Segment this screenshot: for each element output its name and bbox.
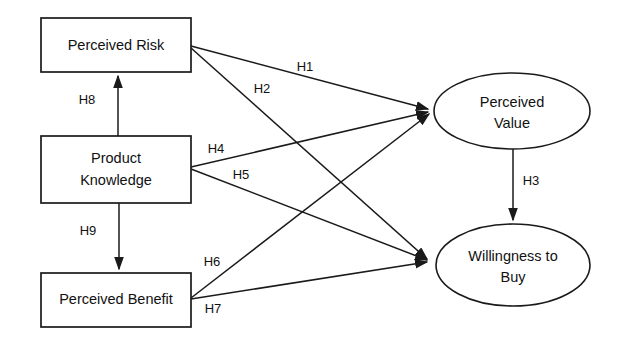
node-perceived-risk[interactable]: Perceived Risk	[41, 18, 191, 72]
edge-h6	[191, 114, 429, 298]
hypothesis-label-h2: H2	[254, 81, 271, 96]
hypothesis-label-h7: H7	[205, 301, 222, 316]
node-perceived-benefit[interactable]: Perceived Benefit	[41, 273, 191, 327]
diagram-canvas: Perceived Risk Product Knowledge Perceiv…	[0, 0, 618, 349]
perceived-value-label-line1: Perceived	[480, 94, 544, 110]
hypothesis-label-h6: H6	[204, 254, 221, 269]
hypothesis-label-h3: H3	[523, 173, 540, 188]
perceived-benefit-label: Perceived Benefit	[59, 291, 173, 307]
node-product-knowledge[interactable]: Product Knowledge	[41, 136, 191, 203]
perceived-risk-label: Perceived Risk	[68, 37, 165, 53]
product-knowledge-box[interactable]	[41, 136, 191, 203]
edge-h1	[191, 46, 428, 109]
willingness-to-buy-label-line2: Buy	[501, 269, 527, 285]
perceived-value-label-line2: Value	[494, 115, 530, 131]
willingness-to-buy-label-line1: Willingness to	[468, 248, 557, 264]
hypothesis-label-h8: H8	[79, 92, 96, 107]
hypothesis-label-h9: H9	[80, 223, 97, 238]
node-willingness-to-buy[interactable]: Willingness to Buy	[436, 224, 590, 306]
edge-h4	[191, 112, 428, 167]
edge-h2	[191, 48, 427, 259]
hypothesis-label-h5: H5	[233, 167, 250, 182]
product-knowledge-label-line2: Knowledge	[80, 172, 152, 188]
willingness-to-buy-ellipse[interactable]	[436, 224, 590, 306]
node-perceived-value[interactable]: Perceived Value	[434, 73, 590, 149]
hypothesis-label-h4: H4	[208, 141, 225, 156]
edge-h7	[191, 262, 427, 299]
perceived-value-ellipse[interactable]	[434, 73, 590, 149]
path-model-diagram: Perceived Risk Product Knowledge Perceiv…	[0, 0, 618, 349]
product-knowledge-label-line1: Product	[91, 150, 141, 166]
hypothesis-label-h1: H1	[297, 59, 314, 74]
edge-h5	[191, 169, 427, 260]
